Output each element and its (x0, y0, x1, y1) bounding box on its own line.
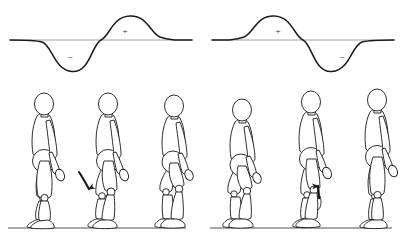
front-shin (39, 201, 51, 222)
rear-knee-joint (231, 191, 237, 197)
mannequin-6 (360, 89, 399, 229)
positive-sign-right: + (275, 26, 280, 36)
front-knee-joint (41, 194, 48, 201)
rear-knee-joint (99, 193, 106, 200)
front-knee-joint (374, 191, 381, 198)
mannequin-5 (293, 91, 333, 228)
left-panel: − + (8, 16, 195, 229)
front-foot (229, 219, 253, 228)
head (165, 95, 184, 117)
mannequin-4 (223, 99, 263, 228)
front-shin (372, 198, 384, 221)
mannequin-2 (88, 93, 130, 229)
head (35, 93, 54, 115)
knee-arrow-left (79, 172, 89, 189)
head (99, 93, 118, 115)
front-foot (161, 219, 185, 228)
negative-sign-left: − (67, 52, 72, 62)
front-shin (239, 194, 251, 220)
diagram-canvas: − + (0, 0, 404, 240)
moment-curve-right (212, 16, 394, 72)
front-thigh (370, 157, 385, 195)
moment-curve-left (10, 16, 192, 72)
rear-knee-joint (163, 189, 170, 196)
mannequin-1 (27, 93, 66, 229)
mannequin-3 (155, 95, 195, 228)
right-panel: + − (210, 16, 399, 229)
front-shin (171, 192, 183, 220)
front-thigh (37, 161, 52, 198)
head (233, 99, 252, 121)
head (302, 91, 321, 113)
positive-sign-left: + (122, 26, 127, 36)
head (368, 89, 387, 111)
knee-arrow-right (318, 186, 319, 198)
negative-sign-right: − (339, 52, 344, 62)
gait-diagram: − + (0, 0, 404, 240)
